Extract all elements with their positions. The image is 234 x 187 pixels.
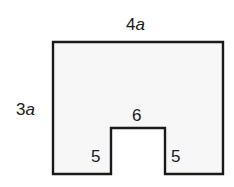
notch-width-label: 6: [132, 106, 141, 125]
notched-rectangle-diagram: 4a 3a 6 5 5: [0, 0, 234, 187]
left-height-label: 3a: [16, 100, 35, 119]
top-width-label: 4a: [126, 15, 145, 34]
notch-right-height-label: 5: [171, 147, 180, 166]
notch-left-height-label: 5: [91, 147, 100, 166]
